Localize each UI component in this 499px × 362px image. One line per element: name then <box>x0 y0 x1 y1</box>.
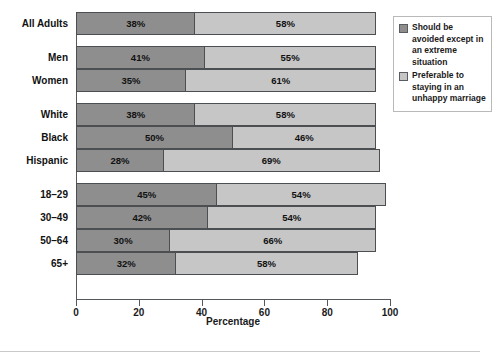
x-tick-mark <box>327 300 328 306</box>
bottom-divider <box>0 351 480 352</box>
bar-row: 35%61% <box>76 69 377 92</box>
bar-segment-avoided: 50% <box>76 126 233 149</box>
category-label: Hispanic <box>0 155 68 166</box>
bar-segment-avoided: 42% <box>76 206 208 229</box>
bar-segment-avoided: 45% <box>76 183 217 206</box>
chart-legend: Should be avoided except in an extreme s… <box>393 16 492 112</box>
x-tick-mark <box>202 300 203 306</box>
x-tick-mark <box>76 300 77 306</box>
category-label: 65+ <box>0 258 68 269</box>
legend-entry-avoided: Should be avoided except in an extreme s… <box>399 22 487 68</box>
bar-segment-preferable: 66% <box>169 229 376 252</box>
bar-segment-preferable: 58% <box>194 12 376 35</box>
x-axis-title: Percentage <box>76 316 390 327</box>
x-tick-mark <box>264 300 265 306</box>
x-axis-line <box>76 299 391 300</box>
category-label: 18–29 <box>0 189 68 200</box>
bar-row: 42%54% <box>76 206 377 229</box>
legend-swatch-light-icon <box>399 72 408 81</box>
bar-segment-avoided: 28% <box>76 149 164 172</box>
bar-segment-preferable: 58% <box>194 103 376 126</box>
category-label: Men <box>0 52 68 63</box>
category-label: All Adults <box>0 18 68 29</box>
legend-label-preferable: Preferable to staying in an unhappy marr… <box>412 70 487 105</box>
x-tick-mark <box>390 300 391 306</box>
bar-row: 30%66% <box>76 229 377 252</box>
legend-swatch-dark-icon <box>399 24 408 33</box>
bar-segment-preferable: 69% <box>163 149 380 172</box>
bar-row: 32%58% <box>76 252 359 275</box>
legend-label-avoided: Should be avoided except in an extreme s… <box>412 22 487 68</box>
bar-segment-preferable: 54% <box>207 206 377 229</box>
category-label: Women <box>0 75 68 86</box>
bar-segment-preferable: 61% <box>185 69 377 92</box>
bar-segment-avoided: 41% <box>76 46 205 69</box>
bar-segment-preferable: 46% <box>232 126 376 149</box>
bar-row: 45%54% <box>76 183 387 206</box>
bar-row: 41%55% <box>76 46 377 69</box>
category-label: 50–64 <box>0 235 68 246</box>
bar-row: 38%58% <box>76 12 377 35</box>
plot-area: 020406080100 38%58%41%55%35%61%38%58%50%… <box>76 12 390 299</box>
category-label: White <box>0 109 68 120</box>
bar-segment-avoided: 38% <box>76 103 195 126</box>
bar-segment-preferable: 58% <box>175 252 357 275</box>
legend-entry-preferable: Preferable to staying in an unhappy marr… <box>399 70 487 105</box>
x-tick-mark <box>139 300 140 306</box>
category-label: Black <box>0 132 68 143</box>
bar-segment-avoided: 35% <box>76 69 186 92</box>
chart-figure: 020406080100 38%58%41%55%35%61%38%58%50%… <box>0 0 499 362</box>
bar-segment-preferable: 54% <box>216 183 386 206</box>
bar-segment-preferable: 55% <box>204 46 377 69</box>
bar-row: 28%69% <box>76 149 381 172</box>
bar-row: 38%58% <box>76 103 377 126</box>
bar-segment-avoided: 32% <box>76 252 176 275</box>
category-label: 30–49 <box>0 212 68 223</box>
bar-segment-avoided: 30% <box>76 229 170 252</box>
bar-segment-avoided: 38% <box>76 12 195 35</box>
bar-row: 50%46% <box>76 126 377 149</box>
